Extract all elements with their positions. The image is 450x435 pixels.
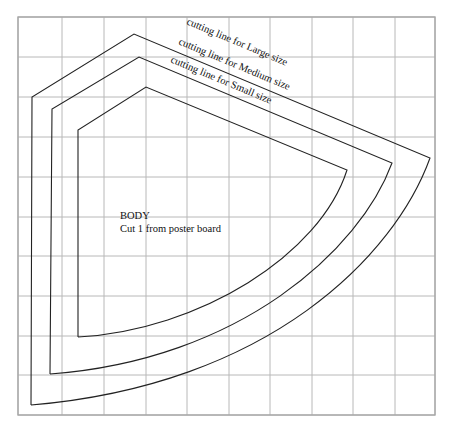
pattern-diagram: cutting line for Large size cutting line…	[0, 0, 450, 435]
cutting-line-large	[31, 34, 430, 405]
piece-instruction: Cut 1 from poster board	[120, 223, 222, 234]
cutting-line-medium	[50, 57, 392, 374]
piece-title: BODY	[120, 210, 150, 221]
cutting-line-small	[78, 87, 347, 337]
